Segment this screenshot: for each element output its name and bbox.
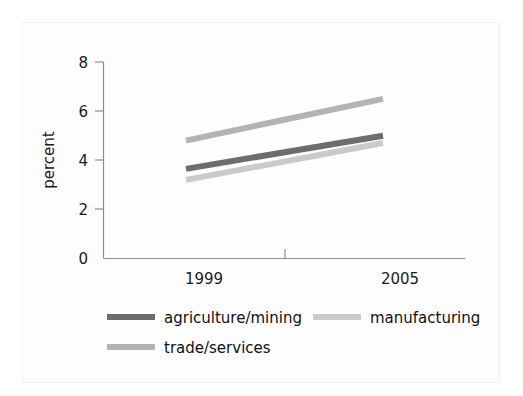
- chart-figure: 8 6 4 2 0 percent 1999 2005 agriculture/…: [0, 0, 523, 396]
- line-chart: 8 6 4 2 0 percent 1999 2005 agriculture/…: [0, 0, 523, 396]
- legend-label-agriculture-mining: agriculture/mining: [164, 309, 302, 327]
- y-tick-label-2: 2: [78, 201, 88, 219]
- x-tick-label-1999: 1999: [185, 270, 223, 288]
- legend-label-trade-services: trade/services: [164, 339, 271, 357]
- series-line-trade-services: [186, 99, 383, 141]
- legend-label-manufacturing: manufacturing: [370, 309, 480, 327]
- y-tick-label-4: 4: [78, 152, 88, 170]
- x-tick-label-2005: 2005: [381, 270, 419, 288]
- y-tick-label-8: 8: [78, 54, 88, 72]
- y-tick-label-6: 6: [78, 103, 88, 121]
- y-axis-title: percent: [40, 131, 58, 189]
- y-tick-label-0: 0: [78, 250, 88, 268]
